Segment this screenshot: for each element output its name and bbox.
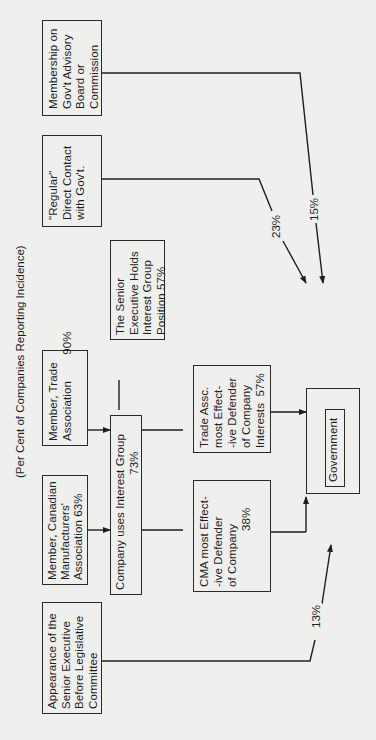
node-executive-holds-position: The Senior Executive Holds Interest Grou… — [110, 240, 165, 340]
node-legislative-appearance-text: Appearance of the Senior Executive Befor… — [46, 613, 100, 709]
edge-label-advisory-board: 15% — [308, 196, 320, 223]
node-cma-defender-text: CMA most Effect- -ive Defender of Compan… — [197, 496, 253, 587]
node-regular-contact-text: "Regular" Direct Contact with Gov't. — [47, 146, 88, 220]
node-regular-contact: "Regular" Direct Contact with Gov't. — [42, 135, 102, 227]
node-advisory-board: Membership on Gov't Advisory Board or Co… — [42, 20, 102, 116]
node-cma-defender: CMA most Effect- -ive Defender of Compan… — [193, 480, 271, 592]
diagram-subtitle: (Per Cent of Companies Reporting Inciden… — [14, 243, 26, 480]
node-trade-association-member: Member, Trade Association 90% — [42, 350, 88, 446]
edge-label-legislative: 13% — [310, 603, 322, 630]
edge-label-regular-contact: 23% — [270, 213, 282, 240]
node-government-text: Government — [327, 418, 341, 482]
node-government: Government — [306, 388, 360, 494]
node-executive-holds-position-text: The Senior Executive Holds Interest Grou… — [114, 251, 168, 335]
node-trade-association-defender-text: Trade Assc. most Effect- -ive Defender o… — [197, 373, 267, 448]
node-cma-member: Member, Canadian Manufacturers' Associat… — [42, 475, 88, 585]
node-legislative-appearance: Appearance of the Senior Executive Befor… — [42, 602, 102, 714]
node-advisory-board-text: Membership on Gov't Advisory Board or Co… — [47, 28, 101, 109]
node-trade-association-member-text: Member, Trade Association 90% — [47, 331, 74, 441]
node-cma-member-text: Member, Canadian Manufacturers' Associat… — [46, 481, 85, 580]
node-company-uses-interest-group-text: Company uses Interest Group 73% — [114, 434, 141, 590]
node-trade-association-defender: Trade Assc. most Effect- -ive Defender o… — [193, 365, 271, 453]
node-government-inner: Government — [325, 409, 345, 487]
node-company-uses-interest-group: Company uses Interest Group 73% — [110, 415, 142, 595]
